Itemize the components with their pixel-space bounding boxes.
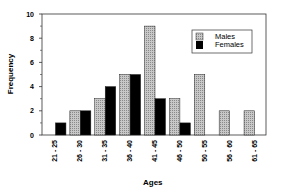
legend-swatch-males bbox=[196, 33, 203, 40]
bar-males bbox=[120, 75, 131, 136]
bar-females bbox=[55, 123, 66, 135]
y-tick-label: 10 bbox=[26, 11, 34, 18]
bar-males bbox=[95, 99, 106, 135]
bar-males bbox=[194, 75, 205, 136]
x-axis-label: Ages bbox=[143, 178, 163, 187]
bar-males bbox=[70, 111, 81, 135]
legend-swatch-females bbox=[196, 41, 203, 49]
bar-females bbox=[180, 123, 191, 135]
y-tick-label: 6 bbox=[30, 59, 34, 66]
x-axis-tick-labels: 21 - 2526 - 3031 - 3536 - 4041 - 4546 - … bbox=[51, 140, 257, 162]
x-tick-label: 41 - 45 bbox=[151, 140, 158, 162]
y-tick-label: 4 bbox=[30, 83, 34, 90]
y-tick-label: 8 bbox=[30, 35, 34, 42]
x-tick-label: 26 - 30 bbox=[76, 140, 83, 162]
y-tick-label: 0 bbox=[30, 132, 34, 139]
bar-males bbox=[169, 99, 180, 135]
x-tick-label: 56 - 60 bbox=[226, 140, 233, 162]
frequency-bar-chart: 0246810 21 - 2526 - 3031 - 3536 - 4041 -… bbox=[0, 0, 281, 192]
y-tick-label: 2 bbox=[30, 107, 34, 114]
y-axis: 0246810 bbox=[26, 11, 42, 139]
x-tick-label: 36 - 40 bbox=[126, 140, 133, 162]
bar-males bbox=[145, 26, 156, 135]
bar-females bbox=[80, 111, 91, 135]
x-tick-label: 31 - 35 bbox=[101, 140, 108, 162]
bar-males bbox=[219, 111, 230, 135]
bar-females bbox=[105, 87, 116, 135]
y-axis-label: Frequency bbox=[6, 53, 15, 94]
x-tick-label: 61 - 65 bbox=[251, 140, 258, 162]
legend-label-females: Females bbox=[215, 40, 244, 49]
bar-females bbox=[155, 99, 166, 135]
x-tick-label: 50 - 55 bbox=[201, 140, 208, 162]
bar-males bbox=[244, 111, 255, 135]
x-tick-label: 21 - 25 bbox=[51, 140, 58, 162]
x-tick-label: 46 - 50 bbox=[176, 140, 183, 162]
legend: Males Females bbox=[192, 30, 252, 53]
bar-females bbox=[130, 75, 141, 136]
